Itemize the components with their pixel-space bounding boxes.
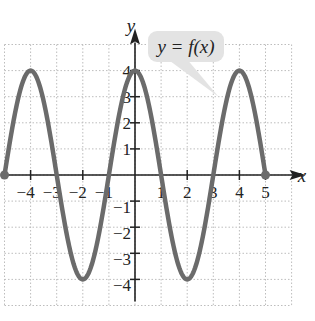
callout-pointer	[166, 58, 219, 97]
curve-label: y = f(x)	[155, 36, 214, 58]
x-tick-label: −2	[69, 183, 87, 202]
x-tick-label: 5	[261, 183, 270, 202]
y-tick-label: 1	[123, 140, 132, 159]
endpoint-dot	[261, 171, 270, 180]
y-axis-label: y	[125, 15, 136, 36]
y-tick-label: −2	[113, 224, 131, 243]
y-tick-label: −4	[113, 276, 132, 295]
x-tick-label: −4	[17, 183, 36, 202]
y-tick-label: −1	[113, 198, 131, 217]
y-tick-label: −3	[113, 250, 131, 269]
function-graph: −4−3−2−112345−4−3−2−11234 y = f(x) y x	[0, 0, 315, 321]
y-tick-label: 2	[123, 114, 132, 133]
x-tick-label: 4	[235, 183, 244, 202]
endpoint-dot	[0, 171, 9, 180]
x-tick-label: 2	[183, 183, 192, 202]
curve-label-callout: y = f(x)	[148, 31, 224, 97]
axes	[5, 29, 306, 302]
x-axis-label: x	[297, 165, 307, 186]
